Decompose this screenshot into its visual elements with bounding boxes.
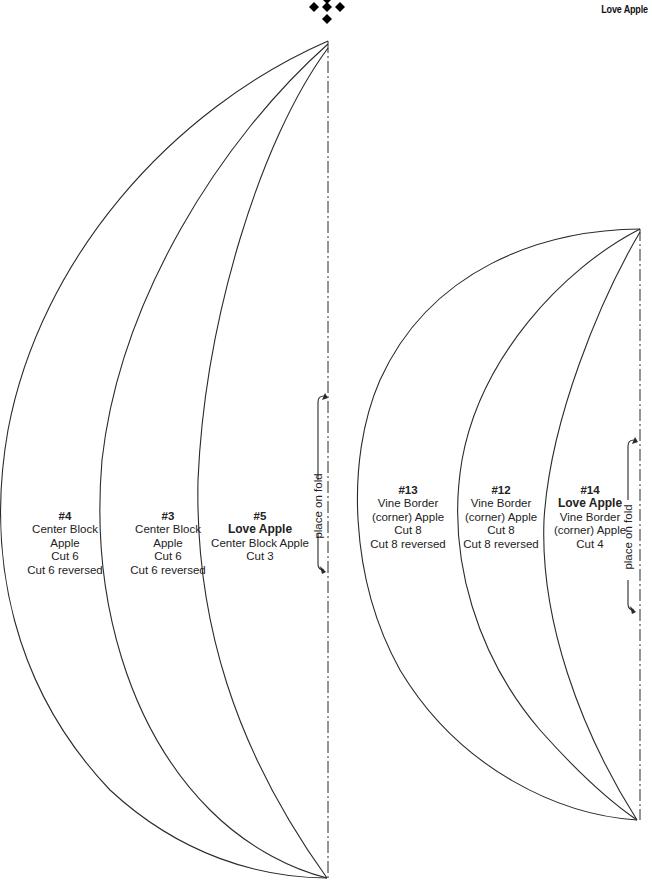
piece-number: #5 — [205, 510, 315, 523]
left-fold-label: place on fold — [312, 470, 324, 542]
piece-cut-count: Cut 8 — [451, 524, 551, 537]
left-fold-arrow-upper — [318, 396, 324, 480]
right-fold-label: place on fold — [622, 501, 634, 573]
piece-cut-reversed: Cut 6 reversed — [10, 564, 120, 577]
piece-desc-line: (corner) Apple — [358, 511, 458, 524]
piece-desc-line: Center Block — [10, 523, 120, 536]
piece-label-5: #5 Love Apple Center Block Apple Cut 3 — [205, 510, 315, 564]
piece-cut-count: Cut 8 — [358, 524, 458, 537]
piece-desc-line: Center Block Apple — [205, 537, 315, 550]
piece-cut-reversed: Cut 8 reversed — [358, 538, 458, 551]
piece-desc-line: (corner) Apple — [451, 511, 551, 524]
piece-desc-line: Vine Border — [451, 497, 551, 510]
piece-cut-reversed: Cut 6 reversed — [113, 564, 223, 577]
piece-cut-count: Cut 3 — [205, 550, 315, 563]
piece-label-4: #4 Center Block Apple Cut 6 Cut 6 revers… — [10, 510, 120, 577]
piece-number: #4 — [10, 510, 120, 523]
piece-number: #12 — [451, 484, 551, 497]
piece-cut-count: Cut 6 — [10, 550, 120, 563]
piece-cut-reversed: Cut 8 reversed — [451, 538, 551, 551]
piece-label-12: #12 Vine Border (corner) Apple Cut 8 Cut… — [451, 484, 551, 551]
piece-block-name: Love Apple — [205, 523, 315, 536]
four-diamond-ornament-icon — [309, 0, 345, 24]
piece-5-outline — [198, 48, 328, 878]
left-pattern-outline — [1, 41, 328, 878]
piece-number: #13 — [358, 484, 458, 497]
piece-desc-line: Apple — [10, 537, 120, 550]
piece-label-13: #13 Vine Border (corner) Apple Cut 8 Cut… — [358, 484, 458, 551]
pattern-drawing — [0, 0, 652, 882]
page-title: Love Apple — [601, 3, 648, 15]
right-fold-arrow-lower — [628, 580, 634, 610]
piece-number: #14 — [540, 484, 640, 497]
piece-3-outline — [100, 44, 328, 878]
piece-desc-line: Vine Border — [358, 497, 458, 510]
